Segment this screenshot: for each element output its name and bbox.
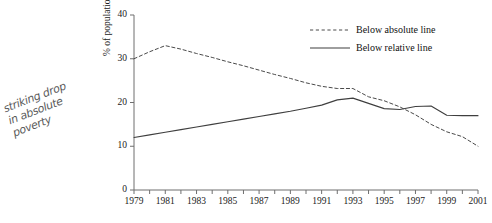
legend-label: Below absolute line [356, 24, 435, 35]
x-tick-label: 1983 [180, 196, 214, 206]
series-line-0 [134, 46, 478, 147]
x-tick-label: 1979 [117, 196, 151, 206]
series-line-1 [134, 98, 478, 137]
chart-plot-area: % of population 010203040 19791981198319… [104, 4, 481, 219]
x-tick-label: 1989 [273, 196, 307, 206]
legend-item: Below absolute line [310, 22, 435, 37]
x-tick-label: 1993 [336, 196, 370, 206]
x-tick-label: 1999 [430, 196, 464, 206]
x-tick-label: 1991 [305, 196, 339, 206]
chart-legend: Below absolute lineBelow relative line [310, 22, 435, 58]
x-tick-label: 1985 [211, 196, 245, 206]
x-tick-label: 1987 [242, 196, 276, 206]
x-tick-label: 1995 [367, 196, 401, 206]
x-tick-label: 1997 [398, 196, 432, 206]
y-tick-label: 20 [107, 97, 127, 107]
legend-line-swatch [310, 43, 350, 52]
legend-line-swatch [310, 25, 350, 34]
y-tick-label: 0 [107, 184, 127, 194]
y-tick-label: 10 [107, 140, 127, 150]
legend-item: Below relative line [310, 40, 435, 55]
legend-label: Below relative line [356, 42, 432, 53]
x-tick-label: 1981 [148, 196, 182, 206]
y-tick-label: 30 [107, 53, 127, 63]
x-tick-label: 2001 [461, 196, 492, 206]
y-tick-label: 40 [107, 9, 127, 19]
handwritten-annotation: striking drop in absolute poverty [2, 65, 119, 141]
